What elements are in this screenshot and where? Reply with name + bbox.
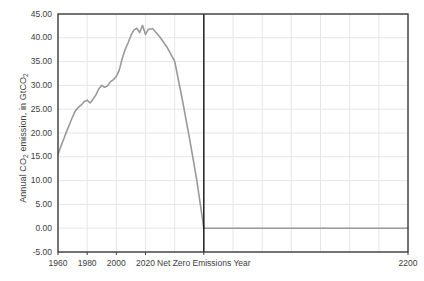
y-tick-label: 45.00: [18, 9, 52, 19]
x-tick-label: 2200: [348, 258, 424, 268]
y-tick-label: 0.00: [18, 223, 52, 233]
chart-figure: Annual CO2 emission, in GtCO2 45.0040.00…: [0, 0, 424, 281]
x-tick-label: Net Zero Emissions Year: [144, 258, 264, 268]
y-tick-label: 40.00: [18, 32, 52, 42]
y-axis-title-sub-2: 2: [22, 73, 29, 77]
y-tick-label: 15.00: [18, 151, 52, 161]
y-tick-label: -5.00: [18, 247, 52, 257]
y-tick-label: 10.00: [18, 175, 52, 185]
y-tick-label: 35.00: [18, 56, 52, 66]
y-tick-label: 30.00: [18, 80, 52, 90]
emissions-line-chart: [0, 0, 424, 281]
y-tick-label: 20.00: [18, 128, 52, 138]
y-tick-label: 5.00: [18, 199, 52, 209]
y-tick-label: 25.00: [18, 104, 52, 114]
